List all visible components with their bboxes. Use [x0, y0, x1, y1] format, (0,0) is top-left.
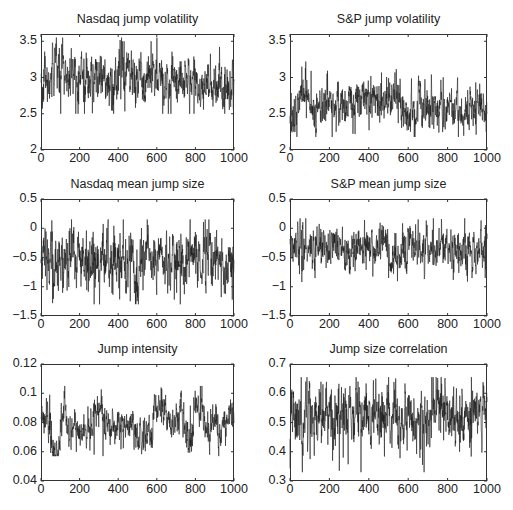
x-tick-label: 1000 [467, 317, 507, 331]
x-tick-label: 200 [309, 482, 349, 496]
x-tick-label: 800 [175, 482, 215, 496]
y-tick-label: 0.06 [1, 444, 37, 458]
y-tick-label: 0.5 [1, 191, 37, 205]
data-line [41, 38, 234, 114]
chart-title: Nasdaq jump volatility [41, 12, 234, 26]
x-tick-label: 400 [349, 151, 389, 165]
x-tick-label: 1000 [467, 151, 507, 165]
y-tick-label: −1 [250, 279, 286, 293]
chart-title: Jump intensity [41, 342, 234, 356]
plot-area [41, 34, 234, 150]
x-tick-label: 600 [388, 151, 428, 165]
x-tick-label: 800 [428, 482, 468, 496]
y-tick-label: 3 [250, 70, 286, 84]
data-line [41, 219, 234, 304]
chart-title: Nasdaq mean jump size [41, 177, 234, 191]
x-tick-label: 0 [270, 317, 310, 331]
x-tick-label: 800 [175, 151, 215, 165]
chart-title: S&P jump volatility [290, 12, 487, 26]
data-line [41, 386, 234, 456]
y-tick-label: 0.12 [1, 356, 37, 370]
x-tick-label: 1000 [214, 482, 254, 496]
data-line [290, 62, 487, 137]
x-tick-label: 200 [60, 482, 100, 496]
plot-area [290, 364, 487, 481]
data-line [290, 218, 487, 282]
y-tick-label: 0.08 [1, 415, 37, 429]
y-tick-label: 2.5 [1, 106, 37, 120]
chart-title: S&P mean jump size [290, 177, 487, 191]
x-tick-label: 1000 [214, 317, 254, 331]
x-tick-label: 600 [137, 317, 177, 331]
plot-area [290, 34, 487, 150]
x-tick-label: 0 [21, 151, 61, 165]
plot-area [41, 364, 234, 481]
x-tick-label: 400 [98, 317, 138, 331]
x-tick-label: 0 [270, 151, 310, 165]
y-tick-label: 0.5 [250, 191, 286, 205]
x-tick-label: 0 [21, 482, 61, 496]
x-tick-label: 400 [349, 317, 389, 331]
x-tick-label: 200 [309, 151, 349, 165]
y-tick-label: 0 [250, 220, 286, 234]
y-tick-label: −0.5 [1, 250, 37, 264]
x-tick-label: 0 [21, 317, 61, 331]
y-tick-label: 2.5 [250, 106, 286, 120]
x-tick-label: 400 [98, 151, 138, 165]
x-tick-label: 800 [175, 317, 215, 331]
x-tick-label: 400 [349, 482, 389, 496]
x-tick-label: 200 [60, 151, 100, 165]
y-tick-label: 0.6 [250, 385, 286, 399]
y-tick-label: 3.5 [250, 33, 286, 47]
y-tick-label: 3 [1, 70, 37, 84]
y-tick-label: −1 [1, 279, 37, 293]
x-tick-label: 200 [309, 317, 349, 331]
data-line [290, 377, 487, 472]
y-tick-label: 3.5 [1, 33, 37, 47]
x-tick-label: 1000 [214, 151, 254, 165]
x-tick-label: 400 [98, 482, 138, 496]
x-tick-label: 600 [137, 482, 177, 496]
x-tick-label: 0 [270, 482, 310, 496]
y-tick-label: 0.7 [250, 356, 286, 370]
x-tick-label: 600 [388, 317, 428, 331]
y-tick-label: 0.1 [1, 385, 37, 399]
y-tick-label: 0 [1, 220, 37, 234]
x-tick-label: 800 [428, 317, 468, 331]
y-tick-label: 0.4 [250, 444, 286, 458]
x-tick-label: 600 [137, 151, 177, 165]
chart-title: Jump size correlation [290, 342, 487, 356]
plot-area [290, 199, 487, 316]
x-tick-label: 1000 [467, 482, 507, 496]
x-tick-label: 200 [60, 317, 100, 331]
y-tick-label: −0.5 [250, 250, 286, 264]
y-tick-label: 0.5 [250, 415, 286, 429]
plot-area [41, 199, 234, 316]
x-tick-label: 800 [428, 151, 468, 165]
x-tick-label: 600 [388, 482, 428, 496]
